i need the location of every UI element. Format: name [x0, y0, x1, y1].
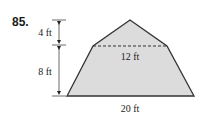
figure: 85. 4 ft 8 ft 12 ft 20 ft — [0, 0, 204, 120]
base-width-label: 20 ft — [121, 103, 140, 114]
top-height-label: 4 ft — [38, 27, 52, 38]
mid-width-label: 12 ft — [121, 51, 140, 62]
bottom-height-label: 8 ft — [38, 66, 52, 77]
problem-number: 85. — [12, 15, 29, 29]
